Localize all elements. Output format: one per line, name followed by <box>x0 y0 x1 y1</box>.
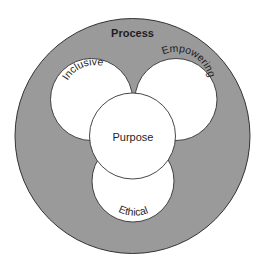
process-label: Process <box>111 27 154 39</box>
purpose-label: Purpose <box>113 131 154 143</box>
diagram: Process Inclusive Empowering Purpose Eth… <box>0 0 265 275</box>
